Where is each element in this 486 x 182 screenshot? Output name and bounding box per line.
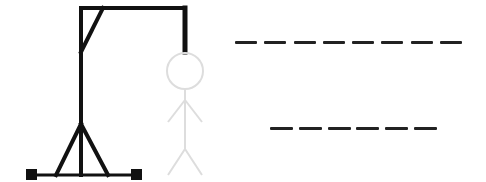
letter-blank xyxy=(385,127,408,130)
figure-left-arm xyxy=(168,100,185,122)
letter-blank xyxy=(235,41,257,44)
letter-blank xyxy=(381,41,403,44)
hangman-game xyxy=(0,0,486,182)
gallows-brace xyxy=(81,8,103,52)
figure-left-leg xyxy=(168,149,185,175)
letter-blank xyxy=(411,41,433,44)
letter-blank xyxy=(264,41,286,44)
gallows-right-leg xyxy=(81,124,108,175)
stick-figure xyxy=(167,53,203,175)
gallows-left-foot xyxy=(26,169,37,180)
figure-head xyxy=(167,53,203,89)
letter-blank xyxy=(299,127,322,130)
figure-right-leg xyxy=(185,149,202,175)
letter-blank xyxy=(270,127,293,130)
letter-blank xyxy=(323,41,345,44)
letter-blank xyxy=(294,41,316,44)
letter-blank xyxy=(440,41,462,44)
letter-blank xyxy=(356,127,379,130)
letter-blank xyxy=(328,127,351,130)
figure-right-arm xyxy=(185,100,202,122)
gallows xyxy=(32,8,185,175)
word-blanks-1 xyxy=(235,41,462,44)
letter-blank xyxy=(414,127,437,130)
letter-blank xyxy=(352,41,374,44)
word-blanks-2 xyxy=(270,127,437,130)
hangman-drawing xyxy=(0,0,486,182)
gallows-left-leg xyxy=(56,124,81,175)
gallows-right-foot xyxy=(131,169,142,180)
